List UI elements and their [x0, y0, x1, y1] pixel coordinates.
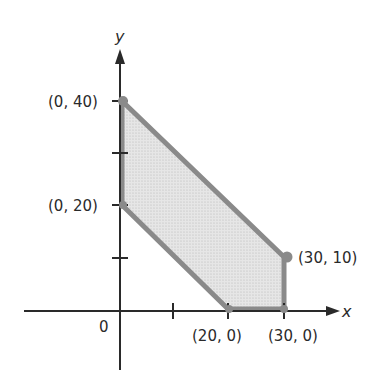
vertex-label-20-0: (20, 0)	[192, 327, 242, 345]
vertex-30-10	[282, 252, 293, 263]
vertex-label-0-40: (0, 40)	[48, 93, 98, 111]
vertex-label-30-0: (30, 0)	[268, 327, 318, 345]
vertex-0-20	[119, 201, 127, 209]
vertex-label-30-10: (30, 10)	[298, 249, 357, 267]
vertex-20-0	[225, 305, 233, 313]
y-axis-label: y	[114, 27, 125, 46]
y-axis-arrow-icon	[115, 49, 125, 64]
x-axis-label: x	[341, 302, 352, 321]
feasible-region-diagram: y x 0 (0, 40) (0, 20) (20, 0) (30, 0) (3…	[0, 0, 381, 392]
vertex-0-40	[118, 96, 128, 106]
origin-label: 0	[99, 318, 109, 336]
vertex-30-0	[280, 305, 288, 313]
feasible-region	[122, 101, 284, 309]
x-axis-arrow-icon	[326, 306, 340, 316]
vertex-label-0-20: (0, 20)	[48, 197, 98, 215]
